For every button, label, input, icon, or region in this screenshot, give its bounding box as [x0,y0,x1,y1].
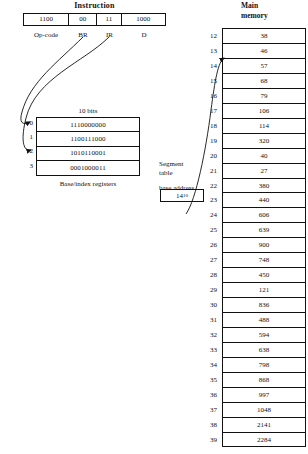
memory-value: 2141 [257,421,271,429]
memory-address: 33 [203,346,217,354]
main-memory-title-line2: memory [241,11,305,21]
memory-value: 748 [259,256,270,264]
main-memory-table: 1238134614571568167917106181141932020402… [222,28,306,447]
memory-row: 28450 [223,268,305,283]
memory-address: 29 [203,286,217,294]
memory-value: 320 [259,137,270,145]
register-row: 1010110001 [37,147,139,161]
register-row: 1100111000 [37,132,139,146]
segment-table-base-address-box: 1410 [160,189,204,202]
memory-value: 488 [259,316,270,324]
base-index-register-table: 1110000000 1100111000 1010110001 0001000… [36,117,140,176]
memory-value: 606 [259,211,270,219]
memory-address: 13 [203,47,217,55]
memory-row: 25639 [223,223,305,238]
instruction-title: Instruction [22,1,167,10]
memory-value: 27 [261,167,268,175]
label-opcode: Op-code [23,31,69,39]
memory-row: 1457 [223,59,305,74]
memory-address: 12 [203,32,217,40]
memory-row: 32594 [223,328,305,343]
main-memory-title: Main memory [241,1,305,20]
memory-address: 38 [203,421,217,429]
memory-row: 22380 [223,179,305,194]
memory-address: 31 [203,316,217,324]
memory-row: 18114 [223,119,305,134]
register-index-3: 3 [24,162,33,170]
label-d: D [122,31,166,39]
memory-row: 19320 [223,134,305,149]
memory-row: 1346 [223,44,305,59]
memory-value: 106 [259,107,270,115]
memory-address: 26 [203,241,217,249]
memory-address: 14 [203,62,217,70]
instruction-field-opcode: 1100 [24,14,69,25]
memory-row: 33638 [223,343,305,358]
memory-value: 868 [259,376,270,384]
memory-row: 392284 [223,433,305,448]
memory-value: 121 [259,286,270,294]
memory-row: 2040 [223,149,305,164]
memory-value: 40 [261,152,268,160]
memory-address: 18 [203,122,217,130]
memory-address: 28 [203,271,217,279]
memory-row: 36997 [223,388,305,403]
memory-address: 24 [203,211,217,219]
memory-row: 1679 [223,89,305,104]
segment-table-base-address-subscript: 10 [183,193,188,198]
memory-row: 24606 [223,208,305,223]
memory-value: 57 [261,62,268,70]
memory-address: 19 [203,137,217,145]
diagram-canvas: Instruction 1100 00 11 1000 Op-code BR I… [0,0,308,454]
memory-address: 35 [203,376,217,384]
memory-row: 30836 [223,298,305,313]
memory-value: 2284 [257,436,271,444]
memory-value: 380 [259,182,270,190]
instruction-field-ir: 11 [97,14,122,25]
memory-address: 36 [203,391,217,399]
label-ir: IR [97,31,122,39]
memory-value: 638 [259,346,270,354]
memory-value: 798 [259,361,270,369]
memory-row: 17106 [223,104,305,119]
memory-value: 997 [259,391,270,399]
memory-row: 26900 [223,238,305,253]
register-row: 0001000011 [37,161,139,175]
memory-address: 32 [203,331,217,339]
instruction-field-br: 00 [69,14,97,25]
register-index-1: 1 [24,133,33,141]
memory-value: 639 [259,226,270,234]
memory-row: 1238 [223,29,305,44]
memory-address: 23 [203,196,217,204]
memory-row: 27748 [223,253,305,268]
memory-value: 440 [259,196,270,204]
register-width-label: 10 bits [36,107,140,115]
memory-address: 25 [203,226,217,234]
memory-row: 1568 [223,74,305,89]
memory-address: 39 [203,436,217,444]
memory-address: 16 [203,92,217,100]
memory-value: 594 [259,331,270,339]
memory-address: 22 [203,182,217,190]
memory-value: 46 [261,47,268,55]
main-memory-title-line1: Main [241,1,305,11]
memory-value: 79 [261,92,268,100]
memory-address: 21 [203,167,217,175]
memory-row: 23440 [223,193,305,208]
register-index-2: 2 [24,147,33,155]
memory-value: 114 [259,122,269,130]
memory-value: 68 [261,77,268,85]
memory-address: 17 [203,107,217,115]
memory-row: 34798 [223,358,305,373]
register-index-0: 0 [24,119,33,127]
memory-row: 31488 [223,313,305,328]
memory-row: 382141 [223,418,305,433]
instruction-field-box: 1100 00 11 1000 [23,13,166,26]
register-row: 1110000000 [37,118,139,132]
segment-table-base-address-value: 14 [176,192,183,200]
memory-row: 35868 [223,373,305,388]
memory-address: 34 [203,361,217,369]
label-br: BR [69,31,97,39]
memory-row: 2127 [223,164,305,179]
memory-value: 836 [259,301,270,309]
